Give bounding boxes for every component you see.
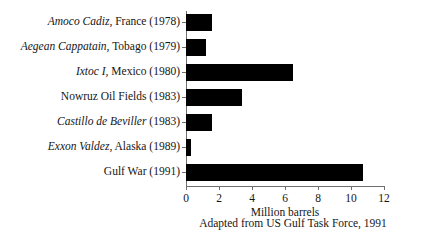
- x-axis-tick: [219, 186, 220, 190]
- category-label-italic: Castillo de Beviller: [57, 115, 146, 127]
- bar-row: Aegean Cappatain, Tobago (1979): [186, 36, 384, 61]
- bar: [186, 64, 293, 81]
- category-label: Castillo de Beviller (1983): [57, 114, 180, 129]
- bar-row: Exxon Valdez, Alaska (1989): [186, 136, 384, 161]
- bar: [186, 14, 212, 31]
- category-label-roman: Nowruz Oil Fields (1983): [61, 90, 180, 102]
- category-label-italic: Amoco Cadiz,: [48, 15, 113, 27]
- category-label-roman: (1983): [146, 115, 180, 127]
- category-label-italic: Aegean Cappatain,: [21, 40, 110, 52]
- bar-row: Amoco Cadiz, France (1978): [186, 11, 384, 36]
- plot-area: Amoco Cadiz, France (1978)Aegean Cappata…: [186, 11, 384, 186]
- bar: [186, 139, 191, 156]
- x-axis-tick-label: 8: [315, 191, 321, 205]
- oil-spill-bar-chart: Amoco Cadiz, France (1978)Aegean Cappata…: [0, 0, 440, 231]
- category-label-roman: France (1978): [112, 15, 180, 27]
- bar-row: Ixtoc I, Mexico (1980): [186, 61, 384, 86]
- bar-row: Gulf War (1991): [186, 161, 384, 186]
- x-axis-tick: [252, 186, 253, 190]
- x-axis-tick: [351, 186, 352, 190]
- x-axis-tick-label: 12: [378, 191, 390, 205]
- bar-row: Nowruz Oil Fields (1983): [186, 86, 384, 111]
- category-label-roman: Mexico (1980): [108, 65, 180, 77]
- category-label: Ixtoc I, Mexico (1980): [76, 64, 180, 79]
- x-axis-tick: [318, 186, 319, 190]
- category-label: Exxon Valdez, Alaska (1989): [48, 139, 180, 154]
- category-label: Aegean Cappatain, Tobago (1979): [21, 39, 180, 54]
- x-axis-tick-label: 2: [216, 191, 222, 205]
- x-axis-tick: [285, 186, 286, 190]
- bar: [186, 114, 212, 131]
- bar-row: Castillo de Beviller (1983): [186, 111, 384, 136]
- category-label-italic: Ixtoc I,: [76, 65, 109, 77]
- category-label-roman: Gulf War (1991): [104, 165, 180, 177]
- category-label: Amoco Cadiz, France (1978): [48, 14, 180, 29]
- x-axis-tick: [384, 186, 385, 190]
- x-axis-tick-label: 0: [183, 191, 189, 205]
- bar: [186, 89, 242, 106]
- x-axis-tick-label: 4: [249, 191, 255, 205]
- category-label-roman: Tobago (1979): [109, 40, 180, 52]
- category-label: Nowruz Oil Fields (1983): [61, 89, 180, 104]
- category-label-roman: Alaska (1989): [112, 140, 180, 152]
- x-axis-tick-label: 6: [282, 191, 288, 205]
- category-label-italic: Exxon Valdez,: [48, 140, 113, 152]
- bar: [186, 164, 363, 181]
- source-caption: Adapted from US Gulf Task Force, 1991: [150, 216, 436, 230]
- x-axis-tick: [186, 186, 187, 190]
- bar: [186, 39, 206, 56]
- x-axis-tick-label: 10: [345, 191, 357, 205]
- category-label: Gulf War (1991): [104, 164, 180, 179]
